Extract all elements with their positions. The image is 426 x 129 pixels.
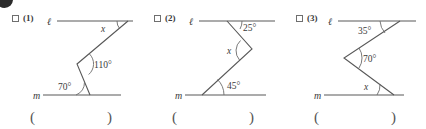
panel-2-line-m-label: m xyxy=(175,90,182,101)
worksheet-root: (1) ℓ m x 110° 70° ( ) xyxy=(0,0,426,129)
panel-3-bottom-angle-arc xyxy=(377,84,380,95)
panel-3-middle-angle-label: 70° xyxy=(363,54,377,64)
panel-1-answer-close-paren: ) xyxy=(107,110,112,125)
panel-1-bottom-angle-label: 70° xyxy=(58,82,72,92)
problem-panel-1: (1) ℓ m x 110° 70° ( ) xyxy=(0,0,142,129)
panel-1-line-l-label: ℓ xyxy=(47,16,51,27)
panel-1-bottom-angle-arc xyxy=(76,82,85,95)
panel-2-top-angle-label: 25° xyxy=(243,23,257,33)
panel-3-bottom-angle-label: x xyxy=(363,82,369,92)
panel-1-answer-row: ( ) xyxy=(0,106,142,128)
panel-1-middle-angle-label: 110° xyxy=(94,60,112,70)
panel-1-middle-angle-arc xyxy=(89,54,94,75)
panel-2-top-angle-arc xyxy=(240,21,242,29)
panel-1-line-m-label: m xyxy=(33,90,40,101)
panel-3-line-m-label: m xyxy=(314,90,321,101)
panel-2-middle-angle-arc xyxy=(236,41,240,61)
panel-3-middle-angle-arc xyxy=(359,48,362,68)
panel-2-answer-close-paren: ) xyxy=(249,110,254,125)
panel-3-answer-open-paren: ( xyxy=(314,110,319,125)
problem-panel-2: (2) ℓ m 25° x 45° ( ) xyxy=(142,0,284,129)
panel-2-bottom-angle-arc xyxy=(218,80,225,96)
panel-2-answer-row: ( ) xyxy=(142,106,284,128)
panel-3-answer-close-paren: ) xyxy=(391,110,396,125)
panel-3-top-angle-label: 35° xyxy=(358,26,372,36)
panel-2-bottom-angle-label: 45° xyxy=(227,81,241,91)
panel-3-line-l-label: ℓ xyxy=(328,16,332,27)
panel-2-middle-angle-label: x xyxy=(226,46,232,56)
panel-1-top-angle-label: x xyxy=(100,24,106,34)
panel-2-line-l-label: ℓ xyxy=(189,16,193,27)
panel-1-answer-open-paren: ( xyxy=(30,110,35,125)
problem-panel-3: (3) ℓ m 35° 70° x ( ) xyxy=(284,0,426,129)
panel-3-answer-row: ( ) xyxy=(284,106,426,128)
panel-2-answer-open-paren: ( xyxy=(172,110,177,125)
panel-1-top-angle-arc xyxy=(117,21,120,29)
